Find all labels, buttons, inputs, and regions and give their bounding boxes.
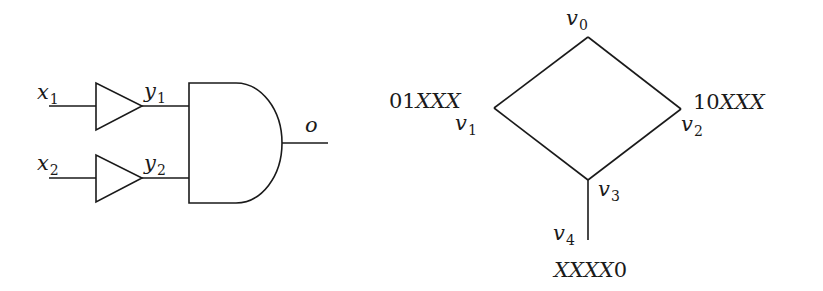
- edge-v1-v3: [494, 108, 588, 180]
- node-v4-pattern: XXXX0: [552, 258, 627, 282]
- edge-v2-v3: [588, 109, 681, 180]
- graph: v0 v1 v2 v3 v4 01XXX 10XXX XXXX0: [389, 6, 766, 282]
- buffer-2-icon: [96, 155, 142, 202]
- node-v3-label: v3: [598, 177, 620, 204]
- label-x2: x2: [37, 151, 59, 178]
- node-v4-label: v4: [553, 221, 575, 248]
- node-v2-pattern: 10XXX: [693, 90, 766, 114]
- label-y1: y1: [143, 79, 166, 106]
- edge-v0-v1: [494, 37, 588, 108]
- and-gate-icon: [189, 83, 282, 203]
- buffer-1-icon: [96, 83, 142, 130]
- label-o: o: [305, 113, 318, 137]
- node-v0-label: v0: [566, 6, 588, 33]
- node-v1-pattern: 01XXX: [389, 89, 462, 113]
- node-v2-label: v2: [681, 112, 703, 139]
- label-x1: x1: [37, 80, 59, 107]
- node-v1-label: v1: [455, 111, 477, 138]
- edge-v0-v2: [588, 37, 681, 109]
- diagram-canvas: x1 x2 y1 y2 o v0 v1 v2 v3 v: [0, 0, 823, 291]
- circuit: x1 x2 y1 y2 o: [37, 79, 328, 203]
- label-y2: y2: [143, 151, 166, 178]
